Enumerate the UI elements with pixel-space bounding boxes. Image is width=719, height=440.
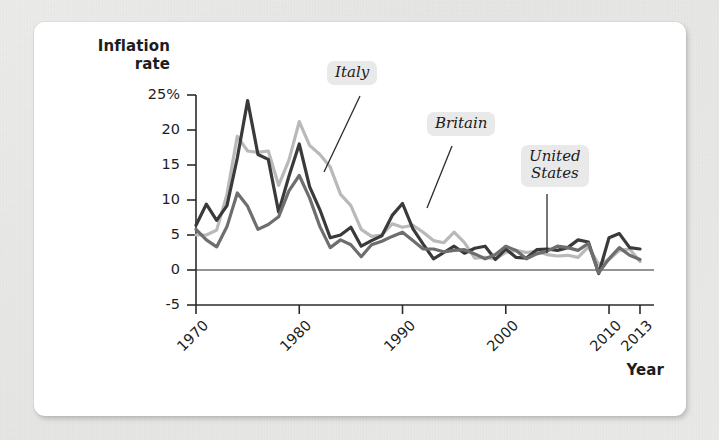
y-tick-label: 25% [126, 86, 180, 102]
y-tick-label: 15 [138, 156, 180, 172]
chart-plot-area: Inflation rate Year -50510152025% 197019… [34, 22, 686, 416]
y-tick-label: 0 [138, 261, 180, 277]
y-tick-label: 20 [138, 121, 180, 137]
chart-card: Inflation rate Year -50510152025% 197019… [34, 22, 686, 416]
leader-line-italy [324, 96, 360, 172]
series-label-united-states: United States [521, 145, 589, 187]
page-background: Inflation rate Year -50510152025% 197019… [0, 0, 719, 440]
x-axis-title: Year [626, 362, 664, 380]
y-tick-label: 5 [138, 226, 180, 242]
series-label-britain: Britain [427, 112, 495, 136]
series-label-italy: Italy [327, 61, 377, 85]
y-tick-label: 10 [138, 191, 180, 207]
y-axis-title: Inflation rate [62, 38, 170, 73]
series-line-united-states [196, 176, 640, 273]
leader-line-britain [427, 146, 452, 208]
y-tick-label: -5 [138, 296, 180, 312]
